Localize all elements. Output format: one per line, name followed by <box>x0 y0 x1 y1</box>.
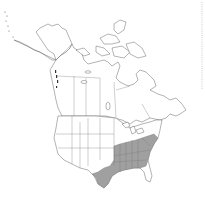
north-america-range-map <box>0 0 205 199</box>
arctic-archipelago <box>76 20 146 58</box>
aleutian-islands <box>4 11 13 37</box>
